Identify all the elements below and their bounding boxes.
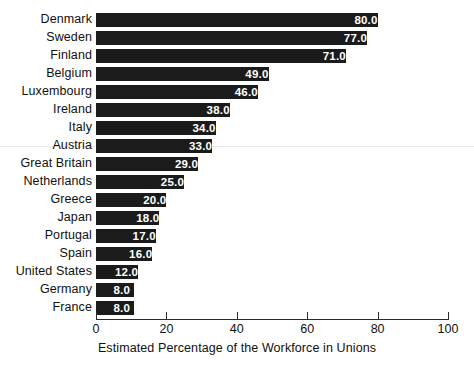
bar-value-label: 34.0	[96, 121, 220, 135]
category-label: United States	[0, 264, 92, 279]
category-label: Austria	[0, 138, 92, 153]
x-tick-label: 100	[428, 321, 468, 337]
x-tick-label: 20	[146, 321, 186, 337]
bar-value-label: 49.0	[96, 67, 273, 81]
bar-row: United States12.0	[0, 265, 474, 279]
category-label: Spain	[0, 246, 92, 261]
x-tick	[307, 312, 308, 320]
bar-row: Great Britain29.0	[0, 157, 474, 171]
bar-row: Greece20.0	[0, 193, 474, 207]
bar-row: Belgium49.0	[0, 67, 474, 81]
category-label: Italy	[0, 120, 92, 135]
category-label: Japan	[0, 210, 92, 225]
x-tick	[378, 312, 379, 320]
bar-value-label: 38.0	[96, 103, 234, 117]
x-tick	[166, 312, 167, 320]
bar-value-label: 25.0	[96, 175, 188, 189]
category-label: Portugal	[0, 228, 92, 243]
bar-value-label: 71.0	[96, 49, 350, 63]
bar-value-label: 20.0	[96, 193, 170, 207]
x-tick-label: 0	[76, 321, 116, 337]
x-tick	[448, 312, 449, 320]
x-tick-label: 40	[217, 321, 257, 337]
bar-row: Luxembourg46.0	[0, 85, 474, 99]
category-label: Denmark	[0, 12, 92, 27]
bar-value-label: 77.0	[96, 31, 371, 45]
bar-value-label: 18.0	[96, 211, 163, 225]
bar-value-label: 80.0	[96, 13, 382, 27]
category-label: Ireland	[0, 102, 92, 117]
bar-value-label: 12.0	[96, 265, 142, 279]
bar-value-label: 29.0	[96, 157, 202, 171]
category-label: Belgium	[0, 66, 92, 81]
category-label: Germany	[0, 282, 92, 297]
category-label: Luxembourg	[0, 84, 92, 99]
bar-value-label: 16.0	[96, 247, 156, 261]
bar-value-label: 33.0	[96, 139, 216, 153]
bar-row: Germany8.0	[0, 283, 474, 297]
category-label: France	[0, 300, 92, 315]
category-label: Netherlands	[0, 174, 92, 189]
category-label: Sweden	[0, 30, 92, 45]
category-label: Finland	[0, 48, 92, 63]
bar-row: Netherlands25.0	[0, 175, 474, 189]
x-tick	[237, 312, 238, 320]
bar-row: Italy34.0	[0, 121, 474, 135]
bar-row: Finland71.0	[0, 49, 474, 63]
bar-value-label: 8.0	[96, 283, 134, 297]
bar-row: Portugal17.0	[0, 229, 474, 243]
bar-value-label: 17.0	[96, 229, 160, 243]
bar-rows: Denmark80.0Sweden77.0Finland71.0Belgium4…	[0, 13, 474, 319]
bar-row: Denmark80.0	[0, 13, 474, 27]
category-label: Great Britain	[0, 156, 92, 171]
x-tick-label: 60	[287, 321, 327, 337]
bar-row: Austria33.0	[0, 139, 474, 153]
category-label: Greece	[0, 192, 92, 207]
bar-row: Sweden77.0	[0, 31, 474, 45]
bar-row: Japan18.0	[0, 211, 474, 225]
bar-row: Spain16.0	[0, 247, 474, 261]
x-axis-line	[96, 319, 448, 320]
bar-value-label: 46.0	[96, 85, 262, 99]
bar-value-label: 8.0	[96, 301, 134, 315]
x-tick-label: 80	[358, 321, 398, 337]
union-membership-bar-chart: Denmark80.0Sweden77.0Finland71.0Belgium4…	[0, 0, 474, 370]
bar-row: Ireland38.0	[0, 103, 474, 117]
x-tick	[96, 312, 97, 320]
x-axis-title: Estimated Percentage of the Workforce in…	[0, 340, 474, 356]
